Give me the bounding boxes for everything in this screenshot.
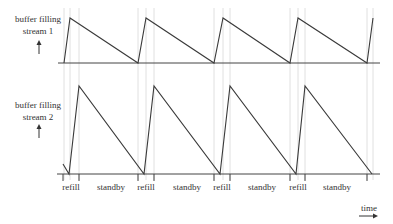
refill-guide-lines [64,8,373,180]
up-arrow-icon [37,40,42,54]
phase-label-refill: refill [62,182,80,192]
time-label: time [361,203,377,213]
stream2-label-line1: buffer filling [15,100,62,110]
phase-label-refill: refill [213,182,231,192]
phase-label-refill: refill [137,182,155,192]
phase-ticks [63,174,367,181]
stream2-label-line2: stream 2 [23,112,54,122]
stream2-sawtooth [63,86,372,174]
right-arrow-icon [359,214,378,219]
stream1-sawtooth [64,18,373,63]
time-axis-label: time [359,203,378,219]
stream1-label-line2: stream 1 [23,26,54,36]
phase-label-standby: standby [97,182,125,192]
phase-label-standby: standby [173,182,201,192]
stream1-label-line1: buffer filling [15,14,62,24]
phase-label-standby: standby [323,182,351,192]
phase-label-standby: standby [248,182,276,192]
buffer-timing-diagram: buffer filling stream 1 buffer filling s… [0,0,393,224]
phase-label-refill: refill [289,182,307,192]
phase-labels: refill standby refill standby refill sta… [62,182,351,192]
up-arrow-icon [37,124,42,138]
